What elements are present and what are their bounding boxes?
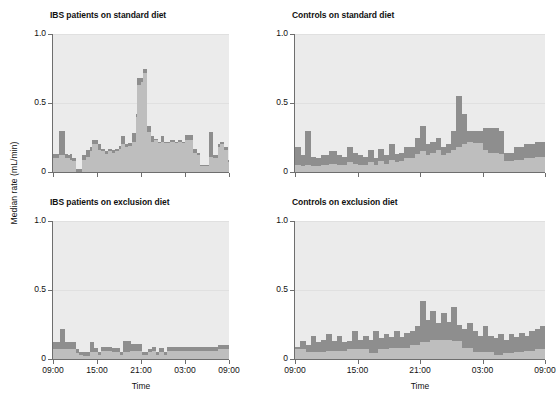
plot-area-controls-exclusion	[295, 221, 545, 359]
y-tick-label-ibs-exclusion-1: 1.0	[17, 215, 46, 225]
x-tick-controls-exclusion-0	[295, 360, 296, 364]
x-tick-ibs-exclusion-2	[141, 360, 142, 364]
x-tick-label-controls-exclusion-2: 21:00	[398, 365, 442, 375]
y-tick-ibs-standard-0	[48, 172, 52, 173]
y-tick-label-controls-exclusion-1: 1.0	[259, 215, 288, 225]
x-tick-label-controls-exclusion-3: 03:00	[461, 365, 505, 375]
figure-canvas: Median rate (mL/min) IBS patients on sta…	[0, 0, 556, 402]
y-tick-controls-exclusion-0	[290, 359, 294, 360]
plot-area-controls-standard	[295, 34, 545, 172]
x-tick-label-ibs-exclusion-1: 15:00	[75, 365, 119, 375]
y-tick-controls-standard-0.5	[290, 103, 294, 104]
gridline-controls-standard-0.5	[295, 103, 545, 104]
x-tick-controls-exclusion-2	[420, 360, 421, 364]
panel-title-ibs-standard: IBS patients on standard diet	[50, 10, 166, 20]
bar	[73, 161, 75, 172]
plot-area-ibs-standard	[53, 34, 229, 172]
x-tick-label-ibs-exclusion-3: 03:00	[163, 365, 207, 375]
x-tick-ibs-standard-1	[97, 173, 98, 177]
y-axis-line-controls-standard	[294, 34, 295, 173]
x-tick-controls-standard-1	[358, 173, 359, 177]
panel-title-ibs-exclusion: IBS patients on exclusion diet	[50, 197, 169, 207]
x-tick-label-controls-exclusion-1: 15:00	[336, 365, 380, 375]
y-tick-ibs-standard-0.5	[48, 103, 52, 104]
y-tick-ibs-exclusion-0.5	[48, 290, 52, 291]
y-axis-line-controls-exclusion	[294, 221, 295, 360]
bar	[227, 162, 229, 172]
y-tick-label-controls-standard-0.5: 0.5	[259, 97, 288, 107]
gridline-ibs-standard-1	[53, 34, 229, 35]
y-tick-controls-exclusion-1	[290, 221, 294, 222]
bar	[542, 349, 545, 359]
x-axis-title-ibs-exclusion: Time	[53, 381, 229, 391]
gridline-ibs-exclusion-0.5	[53, 290, 229, 291]
gridline-ibs-exclusion-1	[53, 221, 229, 222]
y-tick-controls-standard-1	[290, 34, 294, 35]
x-tick-ibs-standard-3	[185, 173, 186, 177]
y-axis-line-ibs-standard	[52, 34, 53, 173]
x-tick-ibs-standard-2	[141, 173, 142, 177]
plot-area-ibs-exclusion	[53, 221, 229, 359]
x-tick-ibs-exclusion-0	[53, 360, 54, 364]
y-tick-ibs-exclusion-1	[48, 221, 52, 222]
gridline-controls-exclusion-0.5	[295, 290, 545, 291]
y-tick-controls-exclusion-0.5	[290, 290, 294, 291]
y-tick-label-ibs-standard-0: 0	[17, 166, 46, 176]
x-tick-label-ibs-exclusion-0: 09:00	[31, 365, 75, 375]
y-tick-ibs-standard-1	[48, 34, 52, 35]
y-tick-label-controls-standard-0: 0	[259, 166, 288, 176]
y-tick-label-ibs-standard-1: 1.0	[17, 28, 46, 38]
x-tick-label-ibs-exclusion-2: 21:00	[119, 365, 163, 375]
y-tick-label-ibs-standard-0.5: 0.5	[17, 97, 46, 107]
x-tick-ibs-exclusion-1	[97, 360, 98, 364]
y-tick-controls-standard-0	[290, 172, 294, 173]
x-tick-controls-exclusion-4	[545, 360, 546, 364]
x-tick-ibs-exclusion-4	[229, 360, 230, 364]
y-tick-label-controls-standard-1: 1.0	[259, 28, 288, 38]
x-tick-controls-standard-0	[295, 173, 296, 177]
panel-title-controls-exclusion: Controls on exclusion diet	[292, 197, 397, 207]
panel-title-controls-standard: Controls on standard diet	[292, 10, 394, 20]
gridline-controls-standard-1	[295, 34, 545, 35]
x-axis-title-controls-exclusion: Time	[295, 381, 545, 391]
bar	[227, 349, 229, 359]
x-tick-label-ibs-exclusion-4: 09:00	[207, 365, 251, 375]
x-tick-ibs-standard-4	[229, 173, 230, 177]
y-tick-label-controls-exclusion-0: 0	[259, 353, 288, 363]
x-tick-label-controls-exclusion-4: 09:00	[523, 365, 556, 375]
x-tick-ibs-exclusion-3	[185, 360, 186, 364]
x-tick-controls-standard-4	[545, 173, 546, 177]
y-axis-title: Median rate (mL/min)	[9, 93, 19, 273]
y-tick-label-ibs-exclusion-0.5: 0.5	[17, 284, 46, 294]
x-tick-controls-standard-3	[483, 173, 484, 177]
x-tick-ibs-standard-0	[53, 173, 54, 177]
y-axis-line-ibs-exclusion	[52, 221, 53, 360]
bar	[542, 157, 545, 172]
y-tick-label-controls-exclusion-0.5: 0.5	[259, 284, 288, 294]
y-tick-label-ibs-exclusion-0: 0	[17, 353, 46, 363]
gridline-controls-exclusion-1	[295, 221, 545, 222]
x-tick-controls-exclusion-3	[483, 360, 484, 364]
x-tick-controls-exclusion-1	[358, 360, 359, 364]
x-tick-label-controls-exclusion-0: 09:00	[273, 365, 317, 375]
x-tick-controls-standard-2	[420, 173, 421, 177]
y-tick-ibs-exclusion-0	[48, 359, 52, 360]
